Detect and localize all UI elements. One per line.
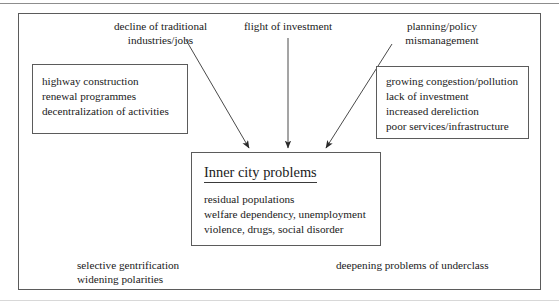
page-top-rule [0,3,559,4]
right-causes-line-2: lack of investment [386,89,528,104]
inner-city-problems-title: Inner city problems [204,164,317,183]
right-causes-line-1: growing congestion/pollution [386,74,528,89]
page-bottom-rule [0,300,559,301]
right-causes-line-3: increased dereliction [386,104,528,119]
right-causes-box-text: growing congestion/pollution lack of inv… [377,67,528,134]
right-causes-line-4: poor services/infrastructure [386,119,528,134]
inner-city-problems-box: Inner city problems residual populations… [191,152,381,246]
inner-city-problems-line-2: welfare dependency, unemployment [204,207,380,222]
cause-label-planning: planning/policy mismanagement [372,19,512,48]
outcome-label-underclass-line-1: deepening problems of underclass [336,258,546,272]
inner-city-problems-list: residual populations welfare dependency,… [204,192,380,237]
diagram-canvas: decline of traditional industries/jobs f… [0,0,559,306]
outcome-label-gentrification-line-1: selective gentrification [77,258,267,272]
right-causes-box: growing congestion/pollution lack of inv… [376,66,529,139]
cause-label-planning-line-2: mismanagement [372,33,512,47]
left-causes-line-3: decentralization of activities [42,104,187,119]
left-causes-box-text: highway construction renewal programmes … [33,65,187,119]
outcome-label-underclass: deepening problems of underclass [336,258,546,272]
cause-label-planning-line-1: planning/policy [372,19,512,33]
inner-city-problems-content: Inner city problems residual populations… [192,153,380,237]
inner-city-problems-line-3: violence, drugs, social disorder [204,222,380,237]
left-causes-line-1: highway construction [42,74,187,89]
cause-label-decline-line-2: industries/jobs [68,33,253,47]
cause-label-flight: flight of investment [218,19,358,33]
left-causes-line-2: renewal programmes [42,89,187,104]
inner-city-problems-line-1: residual populations [204,192,380,207]
outcome-label-gentrification: selective gentrification widening polari… [77,258,267,287]
cause-label-flight-line-1: flight of investment [218,19,358,33]
outcome-label-gentrification-line-2: widening polarities [77,272,267,286]
left-causes-box: highway construction renewal programmes … [32,64,188,134]
